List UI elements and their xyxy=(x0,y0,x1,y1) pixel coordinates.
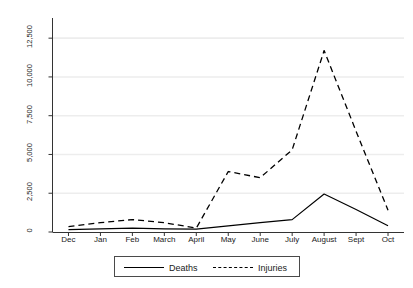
legend-swatch-dashed-line xyxy=(213,267,253,268)
legend-entry-injuries: Injuries xyxy=(213,257,287,278)
chart-legend: Deaths Injuries xyxy=(114,256,300,277)
y-tick-label: 2,500 xyxy=(24,174,33,210)
y-tick-label: 5,000 xyxy=(24,135,33,171)
series-line-deaths xyxy=(68,194,388,230)
legend-swatch-solid-line xyxy=(124,267,164,268)
legend-entry-deaths: Deaths xyxy=(124,257,198,278)
plot-canvas xyxy=(0,0,413,288)
gridlines xyxy=(53,38,405,193)
axis-lines xyxy=(53,18,405,233)
y-tick-label: 10,000 xyxy=(24,57,33,93)
legend-label-deaths: Deaths xyxy=(169,263,198,273)
y-tick-label: 7,500 xyxy=(24,96,33,132)
casualties-line-chart: Reported casualties per month 02,5005,00… xyxy=(0,0,413,288)
x-tick-label: Oct xyxy=(364,235,412,244)
y-tick-label: 12,500 xyxy=(24,19,33,55)
legend-label-injuries: Injuries xyxy=(258,263,287,273)
y-tick-marks xyxy=(49,38,53,232)
y-tick-label: 0 xyxy=(24,213,33,249)
